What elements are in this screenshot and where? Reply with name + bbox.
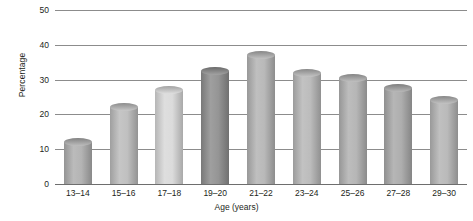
bar-cylinder (384, 88, 412, 184)
bar-body (339, 78, 367, 184)
bar-body (64, 142, 92, 184)
y-tick-label-30: 30 (19, 75, 49, 85)
bar-body (110, 107, 138, 184)
bar-cylinder (201, 71, 229, 184)
bar-17-18 (155, 90, 183, 184)
bar-body (155, 90, 183, 184)
bar-cylinder (110, 107, 138, 184)
bar-top-cap (201, 67, 229, 75)
bar-body (430, 100, 458, 184)
bar-21-22 (247, 55, 275, 184)
bar-27-28 (384, 88, 412, 184)
bar-body (201, 71, 229, 184)
x-tick-label-29-30: 29–30 (417, 188, 471, 198)
y-tick-label-0: 0 (19, 179, 49, 189)
bar-29-30 (430, 100, 458, 184)
bar-body (293, 73, 321, 184)
bar-23-24 (293, 73, 321, 184)
y-tick-label-50: 50 (19, 5, 49, 15)
bar-series (55, 10, 467, 184)
bar-cylinder (339, 78, 367, 184)
plot-area: 01020304050 (55, 10, 467, 184)
bar-cylinder (64, 142, 92, 184)
bar-chart: Percentage 01020304050 13–1415–1617–1819… (0, 0, 473, 221)
bar-top-cap (293, 69, 321, 77)
bar-13-14 (64, 142, 92, 184)
y-tick-label-20: 20 (19, 109, 49, 119)
bar-top-cap (339, 74, 367, 82)
y-tick-label-40: 40 (19, 40, 49, 50)
bar-15-16 (110, 107, 138, 184)
bar-cylinder (247, 55, 275, 184)
y-tick-label-10: 10 (19, 144, 49, 154)
bar-cylinder (155, 90, 183, 184)
bar-body (384, 88, 412, 184)
bar-cylinder (430, 100, 458, 184)
gridline-0: 0 (55, 184, 467, 185)
bar-body (247, 55, 275, 184)
bar-19-20 (201, 71, 229, 184)
bar-25-26 (339, 78, 367, 184)
x-axis-title: Age (years) (0, 202, 473, 212)
bar-cylinder (293, 73, 321, 184)
